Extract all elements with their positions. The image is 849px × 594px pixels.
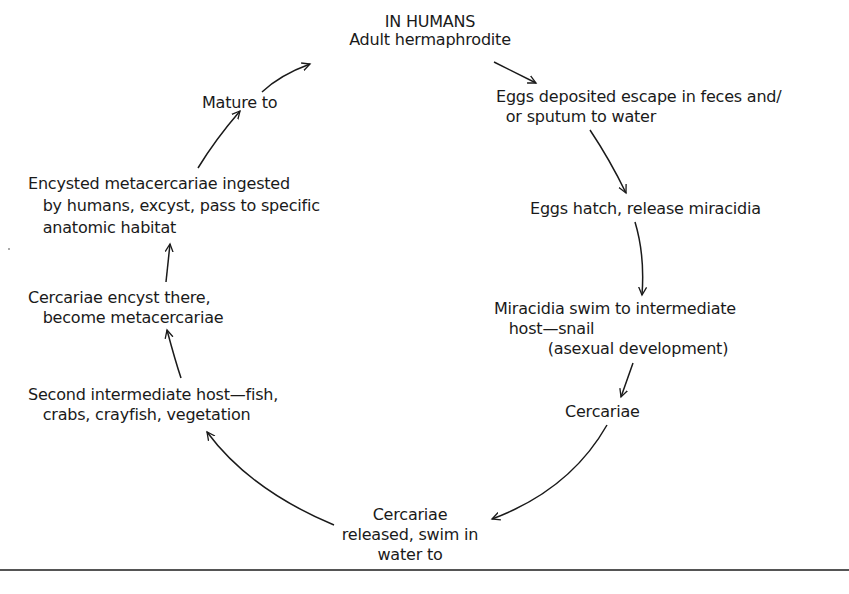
arrow-adult-to-eggs	[494, 62, 536, 83]
arrow-hatch-to-miracidia	[635, 222, 643, 295]
arrow-mature-to-adult	[262, 64, 310, 92]
arrow-second-host-to-encyst	[167, 330, 181, 378]
arrow-eggs-to-hatch	[590, 130, 626, 193]
arrow-released-to-second-host	[207, 432, 334, 525]
bottom-rule	[0, 569, 849, 571]
speck	[8, 248, 10, 250]
arrow-miracidia-to-cercariae	[621, 363, 633, 397]
cycle-arrows	[0, 0, 849, 594]
arrow-ingested-to-mature	[198, 111, 240, 168]
arrow-cercariae-to-released	[492, 425, 607, 519]
arrow-encyst-to-ingested	[166, 244, 170, 282]
